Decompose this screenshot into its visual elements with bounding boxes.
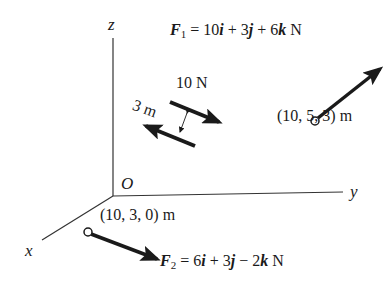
- force-system-diagram: [0, 0, 391, 283]
- force-1-y-component: + 3: [224, 21, 249, 38]
- force-2-symbol: F: [160, 252, 171, 269]
- force-1-symbol: F: [170, 21, 181, 38]
- couple-upper-arrow: [170, 102, 219, 122]
- couple-distance-dimension: [180, 113, 187, 132]
- force-1-x-component: = 10: [186, 21, 219, 38]
- force-2-application-point: [84, 228, 92, 236]
- force-2-unit: N: [268, 252, 284, 269]
- x-axis-label: x: [25, 242, 33, 259]
- y-axis: [113, 192, 343, 196]
- force-1-z-component: + 6: [253, 21, 278, 38]
- force-1-point-label: (10, 5, 3) m: [277, 108, 352, 124]
- force-2-point-label: (10, 3, 0) m: [100, 207, 175, 223]
- force-2-arrow: [84, 228, 157, 259]
- couple-lower-arrow: [146, 126, 195, 146]
- force-2-y-component: + 3: [206, 252, 231, 269]
- z-axis-label: z: [108, 16, 115, 33]
- origin-label: O: [121, 175, 133, 192]
- y-axis-label: y: [350, 183, 358, 200]
- unit-vector-k: k: [260, 252, 268, 269]
- force-2-z-component: − 2: [235, 252, 260, 269]
- unit-vector-k: k: [278, 21, 286, 38]
- force-2-x-component: = 6: [176, 252, 201, 269]
- couple-force-label: 10 N: [176, 75, 208, 91]
- force-2-equation: F2 = 6i + 3j − 2k N: [160, 253, 284, 271]
- force-1-equation: F1 = 10i + 3j + 6k N: [170, 22, 302, 40]
- force-1-unit: N: [286, 21, 302, 38]
